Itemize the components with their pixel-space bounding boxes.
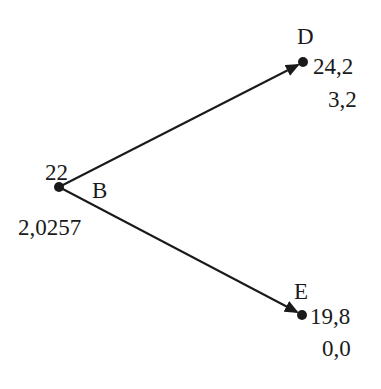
node-e-label: E (294, 280, 308, 303)
node-b-label: B (92, 179, 107, 202)
node-d-value: 3,2 (328, 88, 357, 111)
node-e-price: 19,8 (310, 305, 350, 328)
node-d-price: 24,2 (313, 55, 353, 78)
node-b-value: 2,0257 (18, 216, 81, 239)
node-d-label: D (297, 25, 314, 48)
node-d-dot (298, 57, 308, 67)
edge-b-to-e (59, 187, 297, 312)
edge-b-to-d (59, 65, 298, 187)
node-e-dot (297, 310, 307, 320)
node-b-price: 22 (45, 161, 68, 184)
node-e-value: 0,0 (322, 337, 351, 360)
